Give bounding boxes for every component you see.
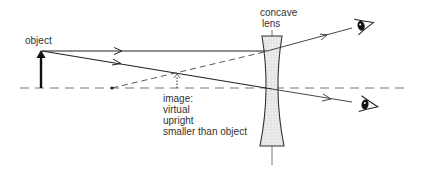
image-caption-upright: upright xyxy=(163,115,247,126)
image-caption-title: image: xyxy=(163,93,247,104)
ray-parallel xyxy=(42,28,352,55)
lens-label-lens: lens xyxy=(262,18,280,29)
image-caption-virtual: virtual xyxy=(163,104,247,115)
eye-icon xyxy=(359,96,380,115)
object-label: object xyxy=(25,35,52,46)
lens-label-concave: concave xyxy=(260,7,297,18)
image-caption: image: virtual upright smaller than obje… xyxy=(163,93,247,137)
object-arrow xyxy=(37,50,46,88)
virtual-image-arrow xyxy=(174,74,180,88)
virtual-ray-extension xyxy=(112,52,264,88)
ray-diagram xyxy=(0,0,427,170)
focal-point xyxy=(110,86,113,89)
image-caption-smaller: smaller than object xyxy=(163,126,247,137)
eye-icon xyxy=(354,15,376,35)
